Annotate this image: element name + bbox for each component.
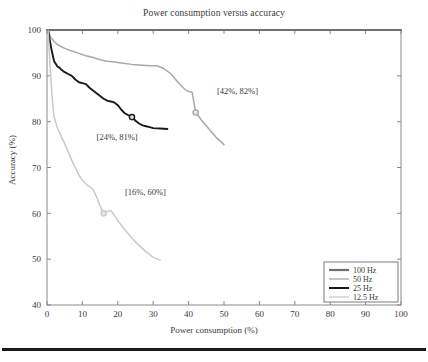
annot-12_5hz: [16%, 60%] <box>125 187 166 197</box>
legend-label-3: 12.5 Hz <box>353 293 379 302</box>
x-tick-label: 90 <box>361 309 371 319</box>
x-tick-label: 80 <box>326 309 336 319</box>
legend-label-0: 100 Hz <box>353 266 377 275</box>
y-tick-label: 100 <box>28 25 42 35</box>
y-tick-label: 60 <box>32 209 42 219</box>
x-tick-label: 30 <box>149 309 159 319</box>
legend: 100 Hz50 Hz25 Hz12.5 Hz <box>324 262 398 302</box>
data-marker-25hz[interactable] <box>129 114 134 119</box>
x-tick-label: 60 <box>255 309 265 319</box>
y-tick-label: 40 <box>32 300 42 310</box>
x-tick-label: 70 <box>290 309 300 319</box>
y-tick-label: 80 <box>32 117 42 127</box>
series-line-50hz <box>48 30 224 145</box>
figure-container: Power consumption versus accuracy Accura… <box>0 0 428 362</box>
plot-area: 0102030405060708090100405060708090100[42… <box>0 0 428 362</box>
x-tick-label: 0 <box>45 309 50 319</box>
series-line-25hz <box>48 30 167 129</box>
y-tick-label: 50 <box>32 254 42 264</box>
y-tick-label: 70 <box>32 163 42 173</box>
series-line-125hz <box>48 30 160 260</box>
annot-50hz: [42%, 82%] <box>217 86 258 96</box>
legend-label-1: 50 Hz <box>353 275 373 284</box>
legend-label-2: 25 Hz <box>353 284 373 293</box>
data-marker-125hz[interactable] <box>101 211 106 216</box>
x-tick-label: 40 <box>184 309 194 319</box>
x-tick-label: 50 <box>220 309 230 319</box>
annot-25hz: [24%, 81%] <box>97 132 138 142</box>
data-marker-50hz[interactable] <box>193 110 198 115</box>
x-tick-label: 10 <box>78 309 88 319</box>
x-tick-label: 100 <box>394 309 408 319</box>
bottom-divider <box>2 348 426 351</box>
x-tick-label: 20 <box>113 309 123 319</box>
y-tick-label: 90 <box>32 71 42 81</box>
